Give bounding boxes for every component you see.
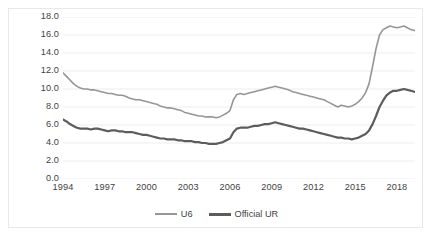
- y-tick-label: 2.0: [25, 156, 59, 165]
- y-tick-label: 18.0: [25, 12, 59, 21]
- legend-swatch-official-ur-icon: [209, 213, 231, 216]
- y-tick-label: 8.0: [25, 102, 59, 111]
- y-tick-label: 16.0: [25, 30, 59, 39]
- y-tick-label: 6.0: [25, 120, 59, 129]
- chart-container: 0.02.04.06.08.010.012.014.016.018.0 1994…: [8, 8, 423, 228]
- x-tick-label: 2018: [386, 183, 407, 192]
- chart-legend: U6 Official UR: [9, 205, 424, 223]
- y-tick-label: 4.0: [25, 138, 59, 147]
- legend-label-official-ur: Official UR: [235, 209, 279, 219]
- x-tick-label: 1997: [94, 183, 115, 192]
- x-tick-label: 2000: [136, 183, 157, 192]
- legend-swatch-u6-icon: [155, 213, 177, 215]
- plot-area: [63, 17, 415, 179]
- x-tick-label: 2012: [303, 183, 324, 192]
- series-line-u6: [63, 26, 415, 118]
- legend-item-u6: U6: [155, 209, 193, 219]
- x-tick-label: 2009: [261, 183, 282, 192]
- y-tick-label: 12.0: [25, 66, 59, 75]
- x-tick-label: 2006: [220, 183, 241, 192]
- chart-plot-wrapper: 0.02.04.06.08.010.012.014.016.018.0 1994…: [9, 9, 424, 229]
- y-tick-label: 10.0: [25, 84, 59, 93]
- series-lines: [63, 26, 415, 148]
- chart-svg: [63, 17, 415, 179]
- x-tick-label: 2003: [178, 183, 199, 192]
- x-tick-label: 1994: [53, 183, 74, 192]
- y-tick-label: 14.0: [25, 48, 59, 57]
- legend-label-u6: U6: [181, 209, 193, 219]
- legend-item-official-ur: Official UR: [209, 209, 279, 219]
- x-tick-label: 2015: [345, 183, 366, 192]
- x-axis: 199419972000200320062009201220152018: [9, 183, 424, 197]
